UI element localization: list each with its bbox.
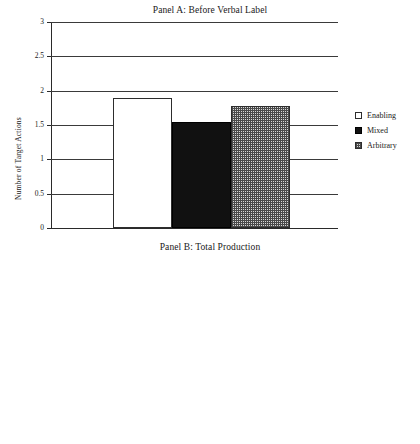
- y-axis-tick: [47, 228, 51, 229]
- y-axis-tick: [47, 91, 51, 92]
- y-axis-tick: [47, 56, 51, 57]
- legend-item: Arbitrary: [355, 138, 397, 153]
- legend-label-arbitrary: Arbitrary: [367, 141, 397, 150]
- y-axis-tick: [47, 125, 51, 126]
- legend-item: Mixed: [355, 123, 397, 138]
- legend-label-enabling: Enabling: [367, 111, 396, 120]
- y-axis-tick-label: 0.5: [10, 190, 44, 198]
- chart-figure: Panel A: Before Verbal Label Number of T…: [0, 0, 420, 444]
- gridline: [51, 22, 338, 23]
- y-axis-tick: [47, 194, 51, 195]
- panel-a: Panel A: Before Verbal Label Number of T…: [0, 0, 420, 240]
- bar-enabling: [113, 98, 172, 228]
- y-axis-tick-label: 2: [10, 87, 44, 95]
- bar-mixed: [172, 122, 231, 228]
- gridline: [51, 228, 338, 229]
- gridline: [51, 56, 338, 57]
- bar-arbitrary: [231, 106, 290, 228]
- legend-label-mixed: Mixed: [367, 126, 388, 135]
- legend-swatch-enabling: [355, 112, 362, 119]
- panel-b-title: Panel B: Total Production: [0, 242, 420, 252]
- y-axis-tick: [47, 159, 51, 160]
- panel-a-legend: EnablingMixedArbitrary: [355, 108, 397, 153]
- y-axis-tick-label: 0: [10, 224, 44, 232]
- legend-swatch-mixed: [355, 127, 362, 134]
- panel-a-plot-area: 00.511.522.53: [51, 22, 338, 228]
- y-axis-tick-label: 3: [10, 18, 44, 26]
- panel-b: Panel B: Total Production Number of Targ…: [0, 240, 420, 444]
- y-axis-tick-label: 1: [10, 155, 44, 163]
- legend-swatch-arbitrary: [355, 142, 362, 149]
- y-axis-tick-label: 1.5: [10, 121, 44, 129]
- y-axis-tick-label: 2.5: [10, 52, 44, 60]
- gridline: [51, 91, 338, 92]
- y-axis-tick: [47, 22, 51, 23]
- panel-a-title: Panel A: Before Verbal Label: [0, 5, 420, 15]
- legend-item: Enabling: [355, 108, 397, 123]
